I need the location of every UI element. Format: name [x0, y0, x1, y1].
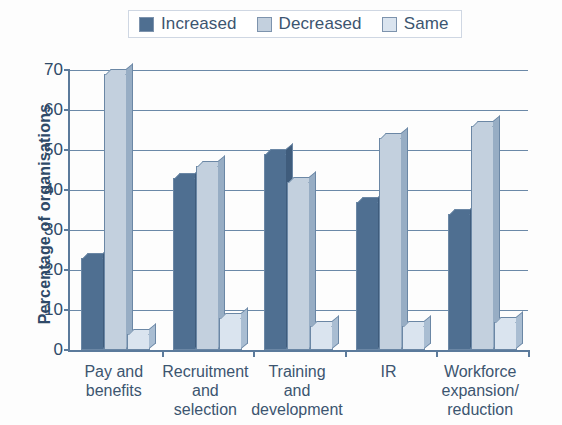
- legend-entry-decreased: Decreased: [257, 14, 362, 34]
- legend-label-decreased: Decreased: [279, 14, 362, 34]
- chart-legend: Increased Decreased Same: [128, 10, 462, 38]
- x-axis-label-line: Pay and: [68, 362, 160, 381]
- y-tick-label: 30: [23, 220, 63, 240]
- bar-same: [310, 326, 333, 350]
- bar-decreased: [196, 166, 219, 350]
- y-tick-label: 0: [23, 340, 63, 360]
- legend-label-increased: Increased: [161, 14, 237, 34]
- x-axis-label: IR: [343, 362, 435, 381]
- x-axis-label: Recruitmentandselection: [160, 362, 252, 419]
- y-tick-label: 10: [23, 300, 63, 320]
- bar-group: [162, 70, 254, 350]
- bar-side-face: [424, 315, 431, 349]
- bar-same: [494, 322, 517, 350]
- bar-side-face: [126, 63, 133, 349]
- bar-same: [127, 334, 150, 350]
- y-tick-label: 20: [23, 260, 63, 280]
- x-tick-mark: [436, 350, 438, 357]
- legend-swatch-decreased: [257, 17, 272, 32]
- legend-entry-same: Same: [382, 14, 449, 34]
- bar-chart: Increased Decreased Same Percentage of o…: [0, 0, 562, 425]
- y-tick-label: 60: [23, 100, 63, 120]
- bar-decreased: [471, 126, 494, 350]
- x-tick-mark: [162, 350, 164, 357]
- x-axis-label-line: Workforce: [434, 362, 526, 381]
- bar-increased: [81, 258, 104, 350]
- x-axis-label-line: development: [251, 400, 343, 419]
- legend-entry-increased: Increased: [139, 14, 237, 34]
- y-tick-label: 50: [23, 140, 63, 160]
- bar-increased: [448, 214, 471, 350]
- x-axis-label-line: and: [160, 381, 252, 400]
- bar-increased: [173, 178, 196, 350]
- x-axis-label-line: Recruitment: [160, 362, 252, 381]
- x-axis-label-line: Training: [251, 362, 343, 381]
- x-tick-mark: [253, 350, 255, 357]
- x-tick-mark: [345, 350, 347, 357]
- bar-increased: [264, 154, 287, 350]
- y-tick-label: 70: [23, 60, 63, 80]
- bar-same: [402, 326, 425, 350]
- x-axis-label: Traininganddevelopment: [251, 362, 343, 419]
- x-axis-label-line: and: [251, 381, 343, 400]
- x-axis-label-line: expansion/: [434, 381, 526, 400]
- bar-side-face: [493, 115, 500, 349]
- x-axis-label-line: benefits: [68, 381, 160, 400]
- bar-decreased: [287, 182, 310, 350]
- bar-group: [70, 70, 162, 350]
- bar-decreased: [379, 138, 402, 350]
- legend-swatch-increased: [139, 17, 154, 32]
- x-tick-mark: [528, 350, 530, 357]
- bar-side-face: [241, 307, 248, 349]
- bar-decreased: [104, 74, 127, 350]
- x-axis-label-line: IR: [343, 362, 435, 381]
- x-axis-label: Workforceexpansion/reduction: [434, 362, 526, 419]
- bar-group: [436, 70, 528, 350]
- bar-group: [345, 70, 437, 350]
- plot-area: 010203040506070: [68, 70, 528, 352]
- bar-side-face: [332, 315, 339, 349]
- y-tick-label: 40: [23, 180, 63, 200]
- bar-group: [253, 70, 345, 350]
- legend-label-same: Same: [404, 14, 449, 34]
- x-axis-label-line: selection: [160, 400, 252, 419]
- x-axis-label: Pay andbenefits: [68, 362, 160, 400]
- bar-same: [219, 318, 242, 350]
- bar-side-face: [516, 311, 523, 349]
- bar-increased: [356, 202, 379, 350]
- x-axis-label-line: reduction: [434, 400, 526, 419]
- bar-side-face: [149, 323, 156, 349]
- legend-swatch-same: [382, 17, 397, 32]
- bar-side-face: [401, 127, 408, 349]
